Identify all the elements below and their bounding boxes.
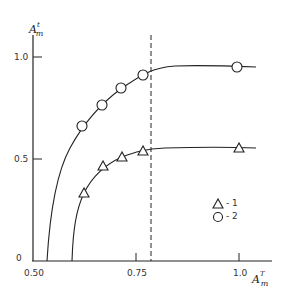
chart-plot (0, 0, 284, 299)
x-axis-label-sub: m (261, 279, 269, 288)
y-tick-label-0: 0 (16, 253, 22, 263)
legend-label-1: - 1 (226, 198, 238, 208)
legend-label-2: - 2 (226, 211, 238, 221)
series-1-markers (79, 143, 244, 197)
legend-circle-icon (214, 213, 223, 222)
y-tick-label-05: 0.5 (14, 154, 28, 164)
series-2-markers (77, 62, 242, 131)
y-axis-label-sup: t (37, 21, 40, 29)
y-axis-label: Atm (29, 22, 47, 38)
y-axis-label-sub: m (36, 29, 44, 38)
y-tick-label-1: 1.0 (14, 52, 28, 62)
x-axis-label-sup: T (260, 270, 265, 278)
x-axis-label-main: A (252, 273, 260, 286)
x-tick-label-1: 1.0 (233, 268, 247, 278)
legend-triangle-icon (213, 199, 223, 208)
x-tick-label-075: 0.75 (127, 268, 147, 278)
x-tick-label-050: 0.50 (24, 268, 44, 278)
x-axis-label: ATm (252, 272, 272, 288)
